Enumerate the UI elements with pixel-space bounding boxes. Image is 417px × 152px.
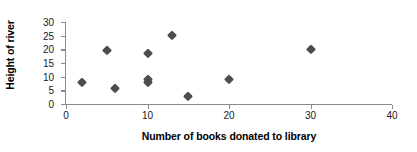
data-point	[78, 78, 87, 87]
y-tick-mark: 30	[61, 22, 65, 23]
y-tick-mark: 10	[61, 77, 65, 78]
x-tick-mark	[148, 105, 149, 109]
y-tick-mark: 5	[61, 90, 65, 91]
scatter-chart-figure: Height of river 051015202530 010203040 N…	[0, 0, 417, 152]
y-tick-label: 20	[43, 44, 54, 55]
y-tick-label: 5	[48, 85, 54, 96]
y-tick-mark: 15	[61, 63, 65, 64]
y-tick-label: 30	[43, 17, 54, 28]
data-point	[224, 75, 233, 84]
y-tick-label: 0	[48, 99, 54, 110]
y-tick-label: 15	[43, 58, 54, 69]
plot-area: 051015202530 010203040	[66, 22, 392, 104]
x-tick-label: 20	[223, 110, 234, 121]
x-tick-label: 40	[386, 110, 397, 121]
data-point	[167, 31, 176, 40]
x-axis-title: Number of books donated to library	[66, 130, 392, 142]
y-axis-line	[65, 22, 66, 105]
data-point	[143, 49, 152, 58]
data-point	[306, 44, 315, 53]
y-tick-label: 10	[43, 71, 54, 82]
x-tick-label: 10	[142, 110, 153, 121]
data-point	[110, 83, 119, 92]
y-tick-mark: 20	[61, 49, 65, 50]
data-point	[102, 46, 111, 55]
y-tick-mark: 0	[61, 104, 65, 105]
data-point	[184, 91, 193, 100]
x-tick-label: 0	[63, 110, 69, 121]
y-axis-title: Height of river	[1, 3, 19, 107]
y-tick-mark: 25	[61, 36, 65, 37]
x-tick-mark	[392, 105, 393, 109]
y-tick-label: 25	[43, 30, 54, 41]
x-tick-label: 30	[305, 110, 316, 121]
x-tick-mark	[229, 105, 230, 109]
x-tick-mark	[311, 105, 312, 109]
x-tick-mark	[66, 105, 67, 109]
